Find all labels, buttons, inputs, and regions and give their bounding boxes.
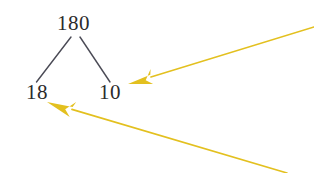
left-child-node-label: 18 — [26, 82, 48, 103]
right-branch-line — [80, 37, 110, 82]
annotation-arrow-to-left-child — [47, 102, 287, 173]
arrow-to-right-child-shaft — [151, 27, 314, 77]
arrow-to-left-child-shaft — [72, 109, 287, 173]
right-child-node-label: 10 — [99, 82, 121, 103]
root-node-label: 180 — [57, 13, 90, 34]
annotation-arrow-to-right-child — [128, 27, 314, 84]
figure-canvas: 180 18 10 — [0, 0, 314, 173]
tree-branches — [37, 37, 111, 82]
arrow-to-right-child-head — [128, 69, 153, 84]
left-branch-line — [37, 37, 72, 82]
